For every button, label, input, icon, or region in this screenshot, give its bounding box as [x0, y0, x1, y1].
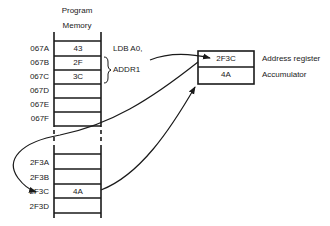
instruction-operand: ADDR1	[113, 65, 140, 75]
address-label: 2F3D	[9, 202, 49, 212]
load-address-arrow	[150, 54, 210, 60]
diagram-graphics	[0, 0, 330, 226]
memory-column-bottom	[54, 145, 101, 218]
data-load-arrow	[101, 87, 195, 190]
address-label: 067E	[9, 100, 49, 110]
address-label: 067B	[9, 58, 49, 68]
memory-header-line1: Program	[42, 6, 112, 16]
memory-cell-value: 4A	[55, 187, 101, 197]
address-label: 067D	[9, 86, 49, 96]
address-label: 067C	[9, 72, 49, 82]
brace	[104, 57, 111, 83]
address-register-label: Address register	[262, 54, 320, 64]
address-label: 067F	[9, 114, 49, 124]
memory-cell-value: 2F	[55, 58, 101, 68]
instruction-opcode: LDB A0,	[113, 44, 142, 54]
address-label: 2F3A	[9, 158, 49, 168]
accumulator-value: 4A	[203, 70, 249, 80]
memory-cell-value: 3C	[55, 72, 101, 82]
address-register-value: 2F3C	[203, 54, 249, 64]
address-label: 067A	[9, 44, 49, 54]
memory-cell-value: 43	[55, 44, 101, 54]
memory-header-line2: Memory	[42, 21, 112, 31]
accumulator-label: Accumulator	[262, 70, 306, 80]
address-label: 2F3B	[9, 173, 49, 183]
address-label: 2F3C	[9, 187, 49, 197]
